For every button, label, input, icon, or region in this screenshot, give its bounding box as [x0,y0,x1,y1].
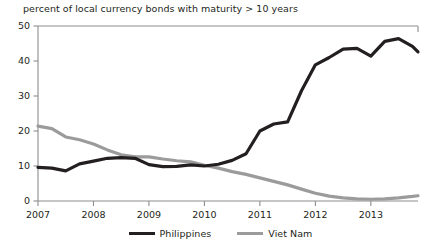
series-lines [38,39,418,200]
line-chart-plot: 01020304050 2007200820092010201120122013 [0,0,441,249]
x-tick-label: 2013 [359,209,383,220]
chart-figure: percent of local currency bonds with mat… [0,0,441,249]
y-tick-label: 30 [18,90,30,101]
legend-label: Philippines [160,228,212,239]
chart-legend: PhilippinesViet Nam [0,228,441,239]
x-tick-label: 2011 [248,209,272,220]
y-axis-ticks: 01020304050 [18,20,38,206]
x-tick-label: 2009 [137,209,161,220]
legend-swatch-icon [237,232,263,235]
y-tick-label: 40 [18,55,30,66]
y-tick-label: 50 [18,20,30,31]
legend-item-viet-nam[interactable]: Viet Nam [237,228,312,239]
series-line-philippines [38,39,418,171]
legend-item-philippines[interactable]: Philippines [129,228,212,239]
x-tick-label: 2012 [303,209,327,220]
y-tick-label: 10 [18,160,30,171]
x-tick-label: 2010 [192,209,216,220]
y-tick-label: 20 [18,125,30,136]
y-tick-label: 0 [24,195,30,206]
x-tick-label: 2007 [26,209,50,220]
legend-swatch-icon [129,232,155,235]
legend-label: Viet Nam [268,228,312,239]
x-tick-label: 2008 [81,209,105,220]
x-axis-ticks: 2007200820092010201120122013 [26,201,383,220]
